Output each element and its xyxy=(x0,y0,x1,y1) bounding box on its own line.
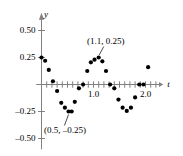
data-point xyxy=(63,106,67,110)
y-axis-tick-label: 0.25 xyxy=(20,53,36,62)
data-point xyxy=(116,98,120,102)
data-point xyxy=(129,106,133,110)
data-point xyxy=(70,109,74,113)
data-point xyxy=(146,65,150,69)
data-point xyxy=(112,86,116,90)
data-point xyxy=(47,68,51,72)
data-point xyxy=(43,59,47,63)
data-point xyxy=(133,95,137,99)
data-point xyxy=(125,109,129,113)
data-point xyxy=(97,55,101,59)
data-point xyxy=(100,59,104,63)
x-axis-arrow xyxy=(159,82,163,87)
x-axis-name-label: t xyxy=(167,80,170,89)
data-point xyxy=(141,82,145,86)
data-point xyxy=(39,55,43,59)
data-point xyxy=(137,82,141,86)
data-point xyxy=(92,58,96,62)
data-point xyxy=(89,60,93,64)
annotation-label-trough: (0.5, –0.25) xyxy=(44,126,86,135)
annotation-leader-line xyxy=(99,47,104,56)
data-point xyxy=(73,100,77,104)
data-point xyxy=(85,69,89,73)
data-point xyxy=(55,89,59,93)
data-point xyxy=(81,82,85,86)
x-axis-tick-label: 2.0 xyxy=(140,90,151,99)
y-axis-tick-label: –0.50 xyxy=(15,134,35,143)
data-point xyxy=(51,79,55,83)
data-point xyxy=(108,82,112,86)
annotation-label-peak: (1.1, 0.25) xyxy=(87,37,125,46)
data-point xyxy=(121,106,125,110)
y-axis-tick-label: –0.25 xyxy=(15,107,35,116)
data-point xyxy=(77,86,81,90)
x-axis-tick-label: 1.0 xyxy=(88,90,99,99)
y-axis-tick-label: 0.50 xyxy=(20,26,36,35)
data-point xyxy=(59,101,63,105)
y-axis-name-label: y xyxy=(44,10,48,19)
scatter-plot-figure: 0.500.25–0.25–0.501.02.0ty(1.1, 0.25)(0.… xyxy=(0,0,183,156)
data-point xyxy=(104,69,108,73)
